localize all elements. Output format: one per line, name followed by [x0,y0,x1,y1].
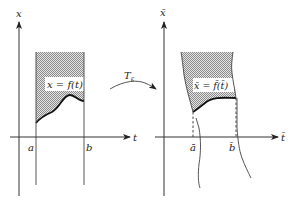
left-panel: x = f(t) x t a b [10,8,138,196]
left-region-label: x = f(t) [47,79,83,90]
right-region-label: x̄ = f̄(t̄) [194,80,228,91]
transform-label-subscript: ε [131,75,135,83]
left-y-axis-label: x [16,8,22,19]
diagram-canvas: x = f(t) x t a b Tε x̄ = f̄(t̄) [0,0,291,206]
left-bound-b-label: b [86,142,92,153]
right-bound-b-label: b̄ [229,142,235,153]
right-x-axis-label: t̄ [281,132,286,143]
right-line-a-crossing [196,118,199,128]
right-y-axis-label: x̄ [160,7,166,18]
transform-label: Tε [124,70,135,83]
transform-mapping: Tε [110,70,156,89]
right-panel: x̄ = f̄(t̄) x̄ t̄ ā b̄ [155,7,286,196]
right-boundary-right-lower [237,128,251,178]
left-bound-a-label: a [28,142,34,153]
right-bound-a-label: ā [190,142,196,153]
left-x-axis-label: t [133,132,138,143]
